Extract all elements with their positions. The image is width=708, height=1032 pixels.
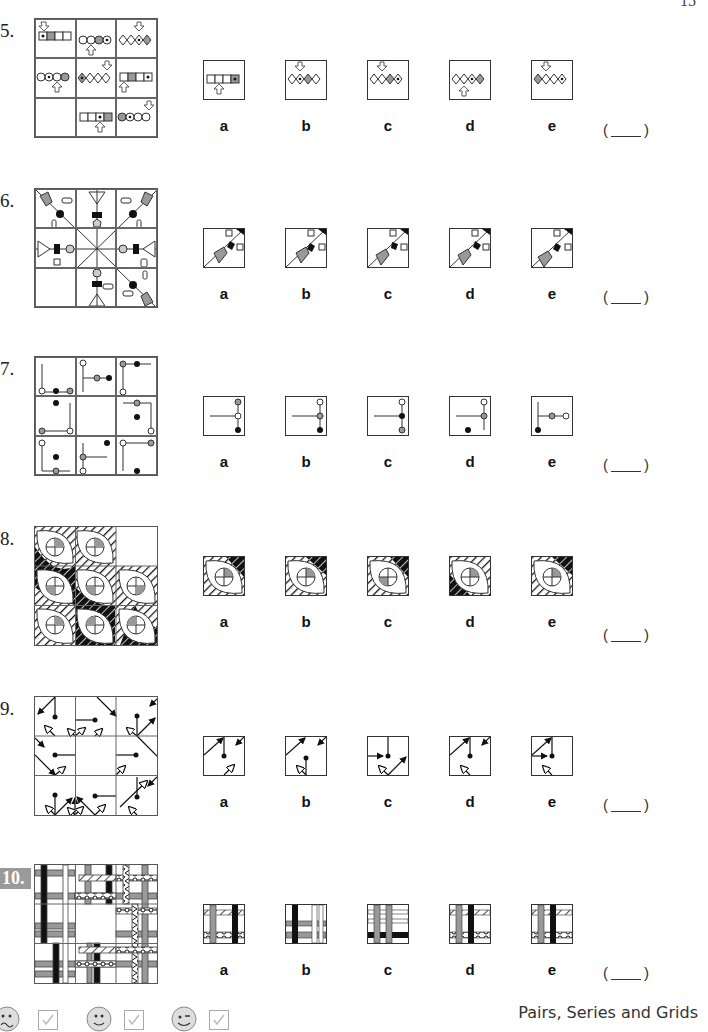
grid-cell	[116, 268, 157, 307]
option-label: a	[203, 793, 245, 810]
grid-cell	[35, 19, 76, 58]
option-label: b	[285, 961, 327, 978]
option-e[interactable]: e	[531, 556, 573, 630]
option-d[interactable]: d	[449, 60, 491, 134]
answer-blank[interactable]: ()	[603, 456, 649, 473]
grid-cell	[76, 19, 117, 58]
question-number: 8.	[0, 528, 14, 550]
question-7: 7. a b c d e ()	[0, 356, 708, 496]
option-label: c	[367, 453, 409, 470]
option-b[interactable]: b	[285, 228, 327, 302]
option-e[interactable]: e	[531, 60, 573, 134]
option-label: e	[531, 117, 573, 134]
question-8: 8.	[0, 526, 708, 666]
checkbox-sad[interactable]	[38, 1010, 58, 1030]
grid-cell-empty[interactable]	[35, 268, 76, 307]
option-label: d	[449, 793, 491, 810]
option-d[interactable]: d	[449, 228, 491, 302]
option-a[interactable]: a	[203, 904, 245, 978]
answer-blank[interactable]: ()	[603, 121, 649, 138]
puzzle-grid	[34, 188, 158, 308]
grid-cell	[76, 228, 117, 267]
option-b[interactable]: b	[285, 60, 327, 134]
grid-cell	[76, 58, 117, 97]
option-d[interactable]: d	[449, 736, 491, 810]
puzzle-grid	[34, 18, 158, 138]
option-a[interactable]: a	[203, 736, 245, 810]
winking-face-icon	[171, 1006, 197, 1032]
option-c[interactable]: c	[367, 904, 409, 978]
grid-cell	[35, 357, 76, 396]
puzzle-grid	[34, 696, 158, 816]
question-5: 5. a b c d e ()	[0, 18, 708, 178]
answer-blank[interactable]: ()	[603, 626, 649, 643]
option-label: d	[449, 961, 491, 978]
grid-cell	[35, 396, 76, 435]
option-c[interactable]: c	[367, 228, 409, 302]
grid-cell-empty[interactable]	[35, 98, 76, 137]
option-label: d	[449, 285, 491, 302]
option-label: b	[285, 453, 327, 470]
grid-cell	[116, 19, 157, 58]
self-assessment	[0, 1006, 300, 1028]
grid-cell	[76, 189, 117, 228]
grid-cell	[35, 189, 76, 228]
option-label: e	[531, 793, 573, 810]
grid-cell	[116, 189, 157, 228]
option-b[interactable]: b	[285, 904, 327, 978]
answer-blank[interactable]: ()	[603, 964, 649, 981]
option-e[interactable]: e	[531, 396, 573, 470]
option-c[interactable]: c	[367, 60, 409, 134]
puzzle-grid	[34, 526, 158, 646]
grid-cell	[116, 357, 157, 396]
option-d[interactable]: d	[449, 396, 491, 470]
option-label: a	[203, 961, 245, 978]
option-e[interactable]: e	[531, 904, 573, 978]
option-label: c	[367, 961, 409, 978]
option-label: a	[203, 117, 245, 134]
option-a[interactable]: a	[203, 228, 245, 302]
grid-cell	[76, 268, 117, 307]
option-label: e	[531, 613, 573, 630]
smiley-face-icon	[86, 1006, 112, 1032]
option-a[interactable]: a	[203, 60, 245, 134]
option-label: b	[285, 117, 327, 134]
option-label: c	[367, 793, 409, 810]
option-label: b	[285, 793, 327, 810]
question-9: 9.	[0, 696, 708, 836]
answer-blank[interactable]: ()	[603, 796, 649, 813]
option-b[interactable]: b	[285, 396, 327, 470]
option-c[interactable]: c	[367, 556, 409, 630]
grid-cell	[116, 58, 157, 97]
option-a[interactable]: a	[203, 396, 245, 470]
option-e[interactable]: e	[531, 736, 573, 810]
page-number: 15	[680, 0, 696, 10]
option-label: d	[449, 117, 491, 134]
checkbox-happy[interactable]	[124, 1010, 144, 1030]
option-a[interactable]: a	[203, 556, 245, 630]
option-label: e	[531, 285, 573, 302]
grid-cell	[35, 58, 76, 97]
option-c[interactable]: c	[367, 396, 409, 470]
grid-cell-empty[interactable]	[76, 396, 117, 435]
checkbox-wink[interactable]	[209, 1010, 229, 1030]
question-6: 6. a b c d e ()	[0, 188, 708, 328]
grid-cell	[116, 396, 157, 435]
option-label: c	[367, 285, 409, 302]
option-e[interactable]: e	[531, 228, 573, 302]
question-number: 5.	[0, 20, 14, 42]
option-d[interactable]: d	[449, 556, 491, 630]
puzzle-grid	[34, 864, 158, 984]
grid-cell	[35, 436, 76, 475]
option-b[interactable]: b	[285, 556, 327, 630]
grid-cell	[116, 98, 157, 137]
grid-cell	[76, 436, 117, 475]
option-c[interactable]: c	[367, 736, 409, 810]
grid-cell	[116, 228, 157, 267]
option-label: e	[531, 961, 573, 978]
option-d[interactable]: d	[449, 904, 491, 978]
grid-cell	[76, 357, 117, 396]
answer-blank[interactable]: ()	[603, 288, 649, 305]
option-b[interactable]: b	[285, 736, 327, 810]
option-label: a	[203, 613, 245, 630]
